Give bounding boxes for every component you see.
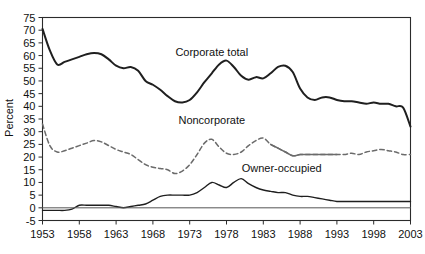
x-tick-label: 1998	[361, 228, 385, 240]
y-tick-label: 40	[23, 100, 35, 112]
y-axis-title: Percent	[3, 99, 15, 137]
x-tick-label: 1973	[177, 228, 201, 240]
x-tick-label: 1953	[30, 228, 54, 240]
y-tick-label: 55	[23, 62, 35, 74]
annotation-owner-occupied: Owner-occupied	[242, 162, 322, 174]
y-tick-label: 50	[23, 75, 35, 87]
y-tick-label: 10	[23, 176, 35, 188]
y-tick-label: 15	[23, 164, 35, 176]
chart-container: -5051015202530354045505560657075 1953195…	[0, 0, 425, 254]
x-tick-label: 2003	[398, 228, 422, 240]
y-tick-label: 45	[23, 88, 35, 100]
annotation-noncorporate: Noncorporate	[178, 114, 245, 126]
y-tick-label: 0	[29, 202, 35, 214]
y-tick-label: 5	[29, 189, 35, 201]
y-tick-label: 30	[23, 126, 35, 138]
y-tick-label: 35	[23, 113, 35, 125]
x-tick-label: 1978	[214, 228, 238, 240]
y-tick-label: 20	[23, 151, 35, 163]
y-tick-label: 75	[23, 12, 35, 24]
line-chart: -5051015202530354045505560657075 1953195…	[0, 0, 425, 254]
y-tick-label: 25	[23, 138, 35, 150]
annotation-corporate-total: Corporate total	[175, 46, 248, 58]
y-tick-label: 60	[23, 50, 35, 62]
x-axis-tick-labels: 1953195819631968197319781983198819931998…	[30, 228, 422, 240]
chart-background	[0, 0, 425, 254]
x-tick-label: 1963	[104, 228, 128, 240]
y-tick-label: 65	[23, 37, 35, 49]
y-tick-label: 70	[23, 24, 35, 36]
x-tick-label: 1988	[288, 228, 312, 240]
x-tick-label: 1968	[141, 228, 165, 240]
x-tick-label: 1983	[251, 228, 275, 240]
y-tick-label: -5	[26, 215, 36, 227]
x-tick-label: 1958	[67, 228, 91, 240]
x-tick-label: 1993	[325, 228, 349, 240]
